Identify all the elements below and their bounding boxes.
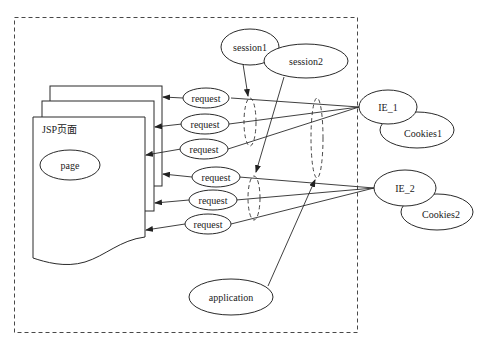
cookies2-label: Cookies2 [422,209,460,220]
request-label: request [190,144,219,155]
application-label: application [209,292,253,303]
cookies1-label: Cookies1 [404,128,442,139]
request-nodes: request request request request request … [180,88,240,234]
request-label: request [202,172,231,183]
jsp-scope-diagram: JSP页面 page request request request reque… [0,0,497,346]
request-label: request [191,119,220,130]
request-label: request [192,93,221,104]
page-scope-label: page [61,160,80,171]
jsp-page-title: JSP页面 [42,124,77,135]
request-label: request [194,219,223,230]
jsp-page-stack: JSP页面 page [33,86,162,265]
ie1-label: IE_1 [378,102,397,113]
request-label: request [199,195,228,206]
session1-label: session1 [233,42,267,53]
ie2-label: IE_2 [395,183,414,194]
session2-label: session2 [289,56,323,67]
client-links [228,98,374,224]
application-scope [311,98,323,178]
